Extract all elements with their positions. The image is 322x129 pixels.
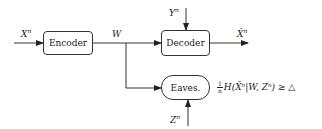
source-input-label: Xn [21,27,31,39]
decoder-label: Decoder [166,38,204,48]
message-label: W [112,29,121,39]
encoder-label: Encoder [49,38,87,48]
equivocation-constraint: 1 n H(X̂ⁿ|W, Zⁿ) ≥ △ [217,81,295,94]
encoder-block: Encoder [43,31,93,55]
eavesdropper-block: Eaves. [161,75,210,100]
eavesdropper-side-info-label: Zn [170,113,180,125]
eavesdropper-label: Eaves. [171,83,201,93]
fraction-one-over-n: 1 n [217,81,223,94]
arrow-message-to-eavesdropper [126,43,161,88]
decoder-side-info-label: Yn [169,6,179,18]
reconstruction-label: X̂n [237,27,247,39]
constraint-expression: H(X̂ⁿ|W, Zⁿ) ≥ △ [224,82,295,92]
diagram-connections [0,0,322,129]
decoder-block: Decoder [161,30,210,56]
